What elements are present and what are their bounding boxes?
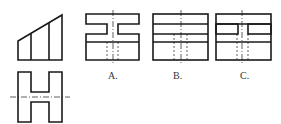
option-c-drawing xyxy=(216,10,271,64)
option-c-label: C. xyxy=(240,70,249,81)
drawing-canvas xyxy=(0,0,281,124)
option-b-label: B. xyxy=(173,70,182,81)
option-a-drawing xyxy=(86,10,139,64)
front-view-trapezoid xyxy=(18,15,62,60)
option-b-drawing xyxy=(153,10,208,64)
option-a-label: A. xyxy=(108,70,118,81)
